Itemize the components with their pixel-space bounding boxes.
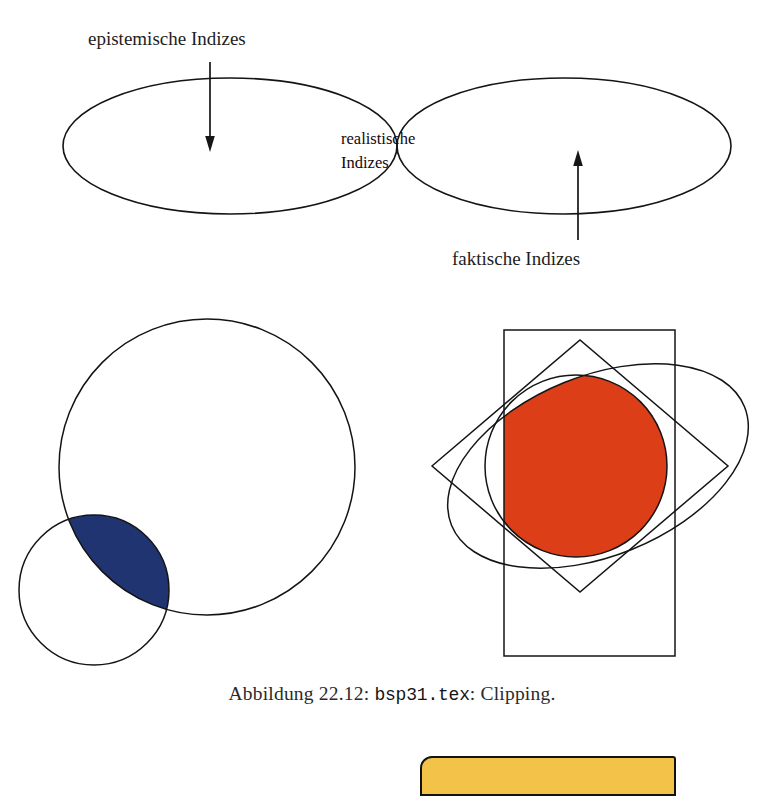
yellow-rounded-box: [420, 756, 676, 796]
venn-right-label: faktische Indizes: [452, 248, 580, 269]
caption-suffix: : Clipping.: [470, 683, 556, 704]
clipping-example-circles: [0, 300, 400, 700]
figure-caption: Abbildung 22.12: bsp31.tex: Clipping.: [0, 683, 784, 705]
venn-left-label: epistemische Indizes: [88, 28, 246, 49]
venn-right-arrow: [573, 150, 583, 240]
circles-lens-fill: [0, 300, 400, 700]
venn-left-arrow: [205, 62, 215, 152]
venn-diagram: epistemische Indizes faktische Indizes r…: [0, 0, 784, 300]
clipping-example-shapes: [400, 300, 784, 700]
caption-filename: bsp31.tex: [374, 685, 469, 705]
venn-intersection-label-line1: realistische: [341, 129, 415, 148]
venn-ellipse-faktisch: [397, 78, 731, 214]
caption-prefix: Abbildung 22.12:: [229, 683, 370, 704]
clip-region-orange: [400, 300, 784, 700]
venn-intersection-label-line2: Indizes: [341, 153, 389, 172]
clip-region-orange-fill: [400, 300, 784, 700]
circles-lens-region: [0, 300, 400, 700]
